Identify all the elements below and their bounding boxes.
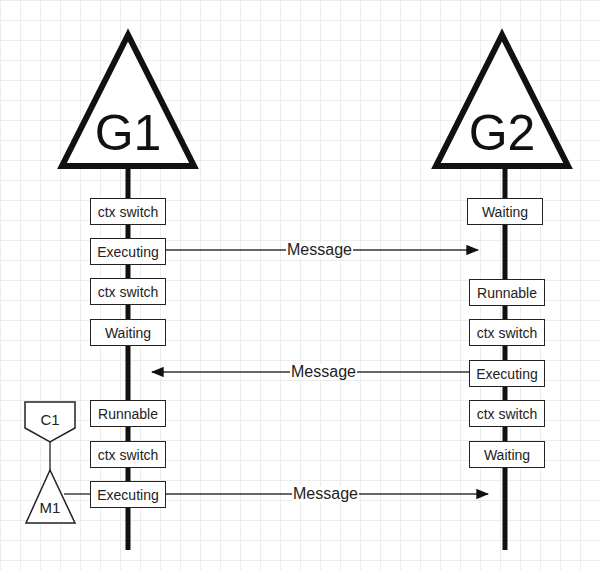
message-label-1: Message [286, 242, 353, 258]
message-label-2: Message [290, 364, 357, 380]
g2-state-box: Waiting [469, 441, 545, 468]
g2-state-box: Runnable [469, 279, 545, 306]
g1-state-box: ctx switch [90, 278, 166, 305]
g2-state-box: Executing [469, 360, 545, 387]
m1-label: M1 [30, 500, 70, 515]
g2-state-box: Waiting [467, 198, 543, 225]
c1-label: C1 [30, 412, 70, 427]
message-label-3: Message [292, 486, 359, 502]
g1-state-box: ctx switch [90, 441, 166, 468]
g2-state-box: ctx switch [469, 319, 545, 346]
g1-state-box: Waiting [90, 319, 166, 346]
g2-state-box: ctx switch [469, 400, 545, 427]
g2-label: G2 [442, 108, 562, 158]
g1-state-box: Runnable [90, 400, 166, 427]
g1-state-box: Executing [90, 238, 166, 265]
g1-label: G1 [68, 108, 188, 158]
g1-state-box: ctx switch [90, 198, 166, 225]
g1-state-box: Executing [90, 481, 166, 508]
